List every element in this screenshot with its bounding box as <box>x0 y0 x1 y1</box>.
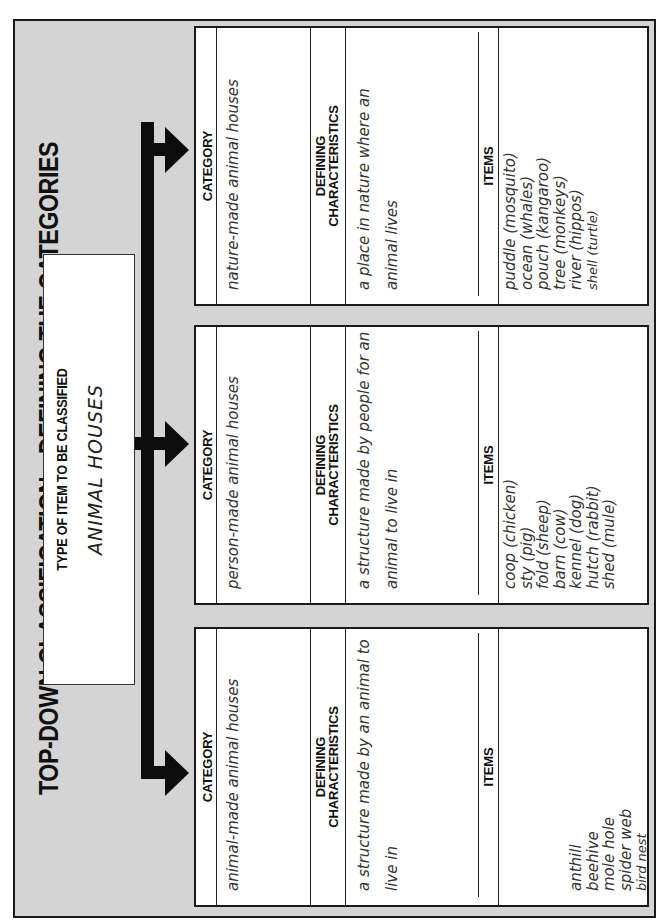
list-item[interactable]: anthill <box>568 629 585 891</box>
category-value[interactable]: animal-made animal houses <box>224 629 242 905</box>
arrow-down-icon <box>165 750 189 796</box>
defining-header-line2: CHARACTERISTICS <box>327 327 340 603</box>
divider <box>498 629 499 905</box>
list-item[interactable]: fold (sheep) <box>535 327 552 589</box>
divider <box>216 327 217 603</box>
divider <box>498 327 499 603</box>
defining-header: DEFINING CHARACTERISTICS <box>314 28 340 304</box>
divider <box>498 28 499 304</box>
divider <box>310 327 311 603</box>
arrow-down-icon <box>165 421 189 467</box>
category-box-person-made: CATEGORY person-made animal houses DEFIN… <box>194 325 649 605</box>
items-header: ITEMS <box>480 629 498 905</box>
list-item[interactable]: coop (chicken) <box>502 327 519 589</box>
defining-value[interactable]: a place in nature where an animal lives <box>350 28 406 304</box>
category-box-animal-made: CATEGORY animal-made animal houses DEFIN… <box>194 627 649 907</box>
divider <box>478 331 479 595</box>
defining-header-line2: CHARACTERISTICS <box>327 28 340 304</box>
divider <box>310 28 311 304</box>
list-item[interactable]: mole hole <box>601 629 618 891</box>
list-item[interactable]: spider web <box>618 629 635 891</box>
category-box-nature-made: CATEGORY nature-made animal houses DEFIN… <box>194 26 649 306</box>
list-item[interactable]: river (hippos) <box>568 28 585 290</box>
divider <box>216 28 217 304</box>
items-header: ITEMS <box>480 28 498 304</box>
defining-header: DEFINING CHARACTERISTICS <box>314 629 340 905</box>
connector-horizontal-bar <box>141 122 154 779</box>
category-value[interactable]: nature-made animal houses <box>224 28 242 304</box>
type-of-item-value[interactable]: ANIMAL HOUSES <box>84 255 106 684</box>
list-item[interactable]: tree (monkeys) <box>552 28 569 290</box>
category-header: CATEGORY <box>198 28 217 304</box>
items-list: coop (chicken) sty (pig) fold (sheep) ba… <box>502 327 618 603</box>
arrow-down-icon <box>165 127 189 173</box>
divider <box>478 633 479 897</box>
category-value[interactable]: person-made animal houses <box>224 327 242 603</box>
list-item[interactable]: hutch (rabbit) <box>585 327 602 589</box>
defining-header: DEFINING CHARACTERISTICS <box>314 327 340 603</box>
list-item[interactable]: sty (pig) <box>519 327 536 589</box>
divider <box>310 629 311 905</box>
divider <box>345 327 346 603</box>
defining-value[interactable]: a structure made by people for an animal… <box>350 327 406 603</box>
list-item[interactable]: kennel (dog) <box>568 327 585 589</box>
items-list: puddle (mosquito) ocean (whales) pouch (… <box>502 28 601 304</box>
list-item[interactable]: pouch (kangaroo) <box>535 28 552 290</box>
category-header: CATEGORY <box>198 629 217 905</box>
items-header: ITEMS <box>480 327 498 603</box>
divider <box>216 629 217 905</box>
type-of-item-label: TYPE OF ITEM TO BE CLASSIFIED <box>54 276 70 662</box>
divider <box>478 32 479 296</box>
category-header: CATEGORY <box>198 327 217 603</box>
list-item[interactable]: barn (cow) <box>552 327 569 589</box>
rotated-worksheet: TOP-DOWN CLASSIFICATION—DEFINING THE CAT… <box>0 0 668 922</box>
defining-value[interactable]: a structure made by an animal to live in <box>350 629 406 905</box>
list-item[interactable]: shell (turtle) <box>585 28 602 290</box>
list-item[interactable]: shed (mule) <box>601 327 618 589</box>
divider <box>345 629 346 905</box>
list-item[interactable]: bird nest <box>634 629 651 891</box>
type-of-item-box: TYPE OF ITEM TO BE CLASSIFIED ANIMAL HOU… <box>43 254 135 685</box>
items-list: anthill beehive mole hole spider web bir… <box>568 629 651 905</box>
defining-header-line2: CHARACTERISTICS <box>327 629 340 905</box>
list-item[interactable]: ocean (whales) <box>519 28 536 290</box>
list-item[interactable]: beehive <box>585 629 602 891</box>
list-item[interactable]: puddle (mosquito) <box>502 28 519 290</box>
divider <box>345 28 346 304</box>
